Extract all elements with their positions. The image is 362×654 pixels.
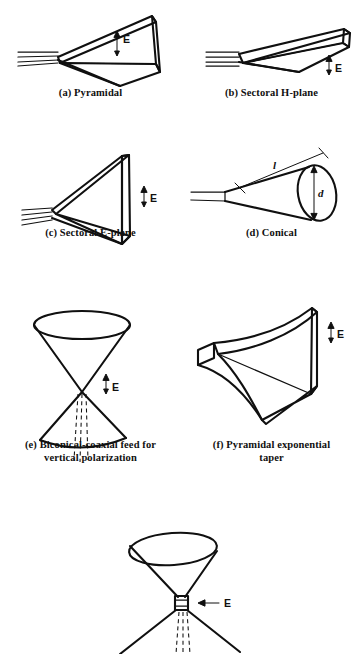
panel-g-field-label: E	[224, 597, 231, 609]
panel-d-conical: l d (d) Conical	[181, 140, 362, 280]
panel-f-field-label: E	[337, 328, 344, 340]
panel-d-length-label: l	[273, 159, 277, 171]
panel-g-biconical-horizontal: E	[90, 500, 362, 654]
panel-e-biconical: E (e) Biconical-coaxial feed for vertica…	[0, 290, 181, 470]
panel-e-field-label: E	[112, 381, 119, 393]
panel-c-sectoral-e-plane: E (c) Sectoral E-plane	[0, 140, 181, 280]
panel-b-sectoral-h-plane: E (b) Sectoral H-plane	[181, 0, 362, 140]
panel-a-caption: (a) Pyramidal	[0, 86, 181, 99]
panel-b-caption: (b) Sectoral H-plane	[181, 86, 362, 99]
panel-a-field-label: E	[123, 33, 130, 45]
panel-e-drawing: E	[0, 290, 181, 440]
panel-b-field-label: E	[335, 62, 342, 74]
panel-d-caption: (d) Conical	[181, 226, 362, 239]
panel-f-exponential-taper: E (f) Pyramidal exponential taper	[181, 290, 362, 470]
panel-e-caption: (e) Biconical-coaxial feed for vertical …	[0, 438, 181, 464]
panel-c-caption: (c) Sectoral E-plane	[0, 226, 181, 239]
panel-f-caption: (f) Pyramidal exponential taper	[181, 438, 362, 464]
panel-c-field-label: E	[150, 192, 157, 204]
panel-a-pyramidal: E (a) Pyramidal	[0, 0, 181, 140]
panel-d-diameter-label: d	[318, 187, 324, 199]
panel-f-drawing: E	[181, 290, 362, 440]
panel-g-drawing: E	[90, 500, 362, 654]
horn-antenna-figure-page: E (a) Pyramidal E (b) Sectoral H-pl	[0, 0, 362, 654]
